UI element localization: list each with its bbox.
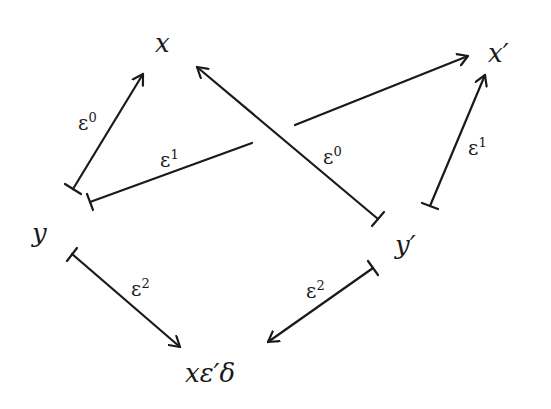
edge-label-base: ε — [78, 111, 88, 135]
mapsto-tail-icon — [67, 248, 77, 261]
edge-y-prime-to-x: ε0 — [197, 67, 384, 226]
edge-label-sup: 1 — [478, 135, 486, 150]
edge-label-sup: 2 — [141, 276, 149, 291]
edge-y-prime-to-composite: ε2 — [268, 261, 378, 342]
edge-y-to-composite: ε2 — [67, 248, 180, 347]
svg-text:ε0: ε0 — [323, 144, 342, 169]
edge-label-sup: 0 — [333, 144, 341, 159]
svg-text:ε2: ε2 — [131, 276, 150, 301]
svg-text:ε0: ε0 — [78, 110, 97, 135]
svg-text:ε2: ε2 — [306, 278, 325, 303]
edge-label-base: ε — [323, 145, 333, 169]
svg-text:ε1: ε1 — [160, 147, 179, 172]
edge-label-base: ε — [131, 277, 141, 301]
edge-label-base: ε — [468, 136, 478, 160]
edge-y-to-x-prime: ε1 — [87, 56, 468, 210]
edge-y-to-x: ε0 — [65, 74, 143, 194]
edge-label-sup: 1 — [170, 147, 178, 162]
mapsto-tail-icon — [65, 184, 81, 194]
edge-label-sup: 0 — [88, 110, 96, 125]
diagram-canvas: x x′ y y′ xε′δ ε0 ε1 ε0 ε1 ε2 ε2 — [0, 0, 551, 409]
edge-label-base: ε — [160, 148, 170, 172]
node-x-prime: x′ — [488, 38, 509, 68]
node-y: y — [31, 218, 47, 248]
mapsto-tail-icon — [368, 261, 378, 275]
edge-label-sup: 2 — [316, 278, 324, 293]
node-composite: xε′δ — [185, 358, 235, 388]
edge-y-prime-to-x-prime: ε1 — [422, 75, 487, 209]
edge-label-base: ε — [306, 279, 316, 303]
node-x: x — [155, 28, 170, 58]
node-y-prime: y′ — [394, 230, 416, 260]
svg-text:ε1: ε1 — [468, 135, 487, 160]
